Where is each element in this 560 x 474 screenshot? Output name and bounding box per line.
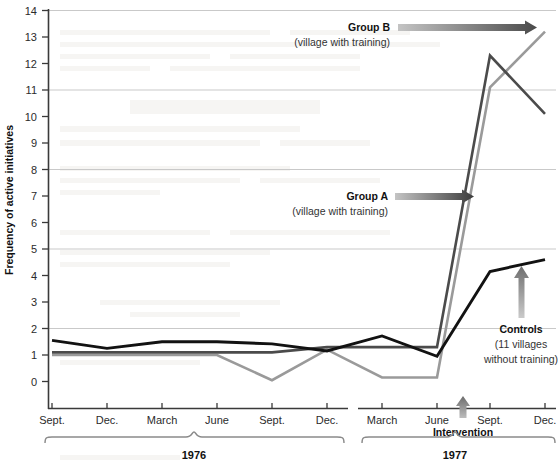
annotation-group-a-arrow-icon [395, 190, 474, 204]
annotation-controls-title: Controls [499, 323, 542, 335]
y-tick-label: 6 [31, 217, 37, 229]
year-label-1976: 1976 [182, 449, 206, 461]
year-label-1977: 1977 [443, 449, 467, 461]
annotation-controls-arrow-icon [514, 266, 529, 318]
x-tick-labels: Sept. Dec. March June Sept. Dec. March J… [39, 414, 556, 426]
annotation-group-a-subtitle: (village with training) [292, 205, 388, 217]
annotation-group-b-title: Group B [348, 21, 390, 33]
y-tick-label: 12 [25, 58, 37, 70]
annotation-controls-subtitle-1: (11 villages [495, 338, 547, 350]
y-tick-label: 9 [31, 137, 37, 149]
year-labels: 1976 1977 [182, 449, 467, 461]
x-tick-label: June [425, 414, 449, 426]
y-tick-label: 11 [26, 84, 37, 96]
x-tick-label: Sept. [477, 414, 503, 426]
x-tick-label: Dec. [316, 414, 339, 426]
x-axis-ticks [52, 403, 545, 408]
y-tick-label: 8 [31, 164, 37, 176]
intervention-arrow-icon [456, 396, 470, 418]
y-tick-label: 0 [31, 376, 37, 388]
page-bleed-through-artifact [60, 30, 440, 460]
annotation-controls-subtitle-2: without training) [483, 353, 558, 365]
y-tick-label: 5 [31, 243, 37, 255]
y-axis-title: Frequency of active initiatives [3, 125, 15, 275]
x-axis: Sept. Dec. March June Sept. Dec. March J… [39, 403, 556, 426]
intervention-label: Intervention [433, 426, 493, 438]
y-tick-label: 10 [25, 111, 37, 123]
y-tick-label: 1 [31, 349, 37, 361]
annotation-group-b-arrow-icon [398, 21, 537, 35]
y-tick-label: 7 [31, 190, 37, 202]
annotation-group-a: Group A (village with training) [292, 190, 474, 218]
y-tick-labels: 14 13 12 11 10 9 8 7 6 5 4 3 2 1 0 [25, 5, 37, 388]
y-tick-label: 3 [31, 296, 37, 308]
x-tick-label: March [147, 414, 178, 426]
x-tick-label: March [367, 414, 398, 426]
y-axis: 14 13 12 11 10 9 8 7 6 5 4 3 2 1 0 [25, 5, 49, 410]
y-tick-label: 13 [25, 31, 37, 43]
x-tick-label: Dec. [534, 414, 557, 426]
chart-figure: 14 13 12 11 10 9 8 7 6 5 4 3 2 1 0 Frequ… [0, 0, 560, 474]
y-axis-ticks [42, 11, 48, 382]
annotation-group-b-subtitle: (village with training) [294, 36, 390, 48]
line-chart-canvas: 14 13 12 11 10 9 8 7 6 5 4 3 2 1 0 Frequ… [0, 0, 560, 474]
annotation-controls: Controls (11 villages without training) [483, 266, 558, 365]
y-tick-label: 4 [31, 270, 37, 282]
bracket-1976 [45, 432, 344, 443]
y-tick-label: 14 [25, 5, 37, 17]
x-tick-label: Sept. [259, 414, 285, 426]
y-tick-label: 2 [31, 323, 37, 335]
x-tick-label: Sept. [39, 414, 65, 426]
x-tick-label: Dec. [96, 414, 119, 426]
annotation-group-a-title: Group A [346, 190, 388, 202]
x-tick-label: June [205, 414, 229, 426]
series-line-controls [52, 260, 545, 357]
